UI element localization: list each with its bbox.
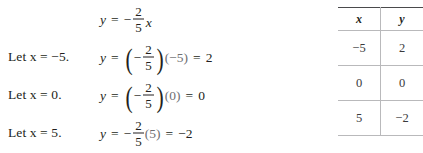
equals-sign: = [106, 125, 124, 141]
equation-row-x-neg5: Let x = −5. y = ( − 2 5 ) (−5) = 2 [0, 38, 300, 76]
fraction-denominator: 5 [143, 57, 154, 71]
let-label-x-neg5: Let x = −5. [8, 49, 69, 65]
result-equals-sign: = [188, 49, 206, 65]
fraction-two-fifths: 2 5 [133, 4, 144, 33]
substituted-value: (5) [145, 125, 161, 141]
table-row: −5 2 [338, 31, 423, 66]
cell-x: 0 [338, 66, 381, 101]
equals-sign: = [106, 49, 124, 65]
negative-sign: − [124, 125, 133, 141]
table-row: 0 0 [338, 66, 423, 101]
substituted-value: (−5) [165, 49, 188, 65]
equation-x-0: y = ( − 2 5 ) (0) = 0 [100, 81, 205, 110]
result-equals-sign: = [161, 125, 179, 141]
fraction-denominator: 5 [133, 133, 144, 147]
result-value: 0 [198, 87, 205, 103]
parenthesized-fraction: ( − 2 5 ) [124, 81, 165, 110]
cell-x: −5 [338, 31, 381, 66]
fraction-denominator: 5 [133, 19, 144, 33]
negative-sign: − [134, 49, 143, 65]
fraction-two-fifths: 2 5 [143, 80, 154, 109]
cell-y: −2 [381, 101, 423, 136]
fraction-numerator: 2 [133, 118, 144, 132]
column-header-y: y [381, 8, 423, 31]
fraction-denominator: 5 [143, 95, 154, 109]
cell-x: 5 [338, 101, 381, 136]
variable-x: x [145, 14, 152, 30]
equation-x-5: y = − 2 5 (5) = −2 [100, 119, 193, 148]
fraction-numerator: 2 [143, 42, 154, 56]
table-row: 5 −2 [338, 101, 423, 136]
fraction-numerator: 2 [133, 4, 144, 18]
result-value: −2 [178, 125, 192, 141]
parenthesized-fraction: ( − 2 5 ) [124, 43, 165, 72]
fraction-two-fifths: 2 5 [143, 42, 154, 71]
value-table-element: x y −5 2 0 0 5 −2 [338, 7, 423, 136]
equation-x-neg5: y = ( − 2 5 ) (−5) = 2 [100, 43, 212, 72]
equation-row-base: y = − 2 5 x [0, 0, 300, 38]
result-equals-sign: = [181, 87, 199, 103]
table-body: −5 2 0 0 5 −2 [338, 31, 423, 136]
negative-sign: − [134, 87, 143, 103]
fraction-two-fifths: 2 5 [133, 118, 144, 147]
xy-value-table: x y −5 2 0 0 5 −2 [338, 7, 423, 148]
equals-sign: = [106, 11, 124, 27]
let-label-x-0: Let x = 0. [8, 87, 62, 103]
equation-row-x-0: Let x = 0. y = ( − 2 5 ) (0) = 0 [0, 76, 300, 114]
equals-sign: = [106, 87, 124, 103]
table-header: x y [338, 8, 423, 31]
let-label-x-5: Let x = 5. [8, 125, 62, 141]
equation-base: y = − 2 5 x [100, 5, 152, 34]
cell-y: 0 [381, 66, 423, 101]
fraction-numerator: 2 [143, 80, 154, 94]
column-header-x: x [338, 8, 381, 31]
cell-y: 2 [381, 31, 423, 66]
table-header-row: x y [338, 8, 423, 31]
equation-row-x-5: Let x = 5. y = − 2 5 (5) = −2 [0, 114, 300, 152]
worked-solution-block: y = − 2 5 x Let x = −5. y = ( − 2 5 [0, 0, 300, 153]
negative-sign: − [124, 11, 133, 27]
result-value: 2 [206, 49, 213, 65]
substituted-value: (0) [165, 87, 181, 103]
